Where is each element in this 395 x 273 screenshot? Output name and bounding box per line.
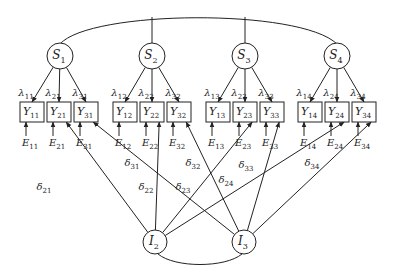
error-label-32: E32 [168,137,185,151]
delta-label-24: δ24 [219,174,234,188]
delta-path-24 [165,122,344,236]
lambda-label-31: λ31 [71,87,87,101]
error-label-34: E34 [353,137,371,151]
lambda-label-11: λ11 [17,87,33,101]
lambda-label-13: λ13 [203,87,219,101]
error-label-31: E31 [75,137,92,151]
lambda-label-32: λ32 [164,87,180,101]
i-factor-covariance-arc [158,254,242,265]
error-label-21: E21 [48,137,65,151]
delta-path-22 [155,122,159,230]
s-factor-covariance-arc [60,18,337,44]
error-label-22: E22 [141,137,158,151]
delta-label-23: δ23 [176,181,191,195]
diagram-svg: Y11Y21Y31Y12Y22Y32Y13Y23Y33Y14Y24Y34S1S2… [0,0,395,273]
error-label-13: E13 [207,137,224,151]
delta-label-31: δ31 [125,157,140,171]
lambda-label-34: λ34 [349,87,366,101]
lambda-label-23: λ23 [230,87,246,101]
lambda-label-21: λ21 [44,87,60,101]
delta-label-33: δ33 [239,159,254,173]
lambda-label-33: λ33 [257,87,273,101]
error-label-33: E33 [261,137,278,151]
sem-diagram: Y11Y21Y31Y12Y22Y32Y13Y23Y33Y14Y24Y34S1S2… [0,0,395,273]
lambda-label-14: λ14 [295,87,312,101]
error-label-24: E24 [326,137,344,151]
error-label-11: E11 [21,137,38,151]
delta-label-22: δ22 [139,181,154,195]
error-label-12: E12 [114,137,131,151]
lambda-label-12: λ12 [110,87,126,101]
delta-label-21: δ21 [37,181,52,195]
lambda-label-22: λ22 [137,87,153,101]
delta-label-32: δ32 [186,157,201,171]
error-label-23: E23 [234,137,251,151]
delta-label-34: δ34 [305,157,320,171]
